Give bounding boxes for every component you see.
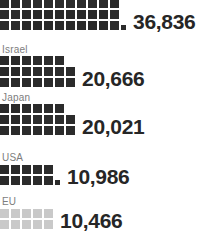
waffle-square bbox=[0, 115, 9, 124]
waffle-square bbox=[99, 21, 108, 30]
waffle-square bbox=[11, 176, 20, 185]
waffle-square bbox=[88, 0, 97, 8]
waffle-column bbox=[11, 104, 20, 135]
chart-entry-south-korea: South Korea 36,836 bbox=[0, 0, 218, 30]
waffle-square bbox=[22, 126, 31, 135]
waffle-square bbox=[33, 10, 42, 19]
waffle-square bbox=[44, 0, 53, 8]
waffle-column bbox=[11, 209, 20, 229]
waffle-square bbox=[11, 0, 20, 8]
waffle-square bbox=[99, 0, 108, 8]
entry-body: 20,021 bbox=[0, 104, 218, 135]
chart-entry-japan: Japan 20,021 bbox=[0, 92, 218, 135]
waffle-square bbox=[11, 104, 20, 113]
waffle-square bbox=[110, 0, 119, 8]
waffle-square bbox=[77, 21, 86, 30]
chart-entry-eu: EU 10,466 bbox=[0, 196, 218, 229]
waffle-square bbox=[22, 10, 31, 19]
waffle-column bbox=[0, 56, 9, 87]
waffle-square bbox=[22, 220, 31, 229]
chart-entry-israel: Israel 20,666 bbox=[0, 44, 218, 87]
waffle-square bbox=[22, 209, 31, 218]
entry-value: 20,021 bbox=[82, 116, 144, 137]
waffle-column bbox=[44, 56, 53, 87]
waffle-column bbox=[66, 115, 75, 135]
waffle-square-partial bbox=[55, 180, 60, 185]
waffle-square bbox=[22, 176, 31, 185]
waffle-square bbox=[33, 0, 42, 8]
waffle-column bbox=[55, 0, 64, 30]
waffle-square bbox=[66, 21, 75, 30]
waffle-square bbox=[66, 126, 75, 135]
entry-label: EU bbox=[2, 196, 218, 207]
waffle-square bbox=[0, 21, 9, 30]
waffle-square bbox=[22, 67, 31, 76]
pictogram-chart: South Korea 36,836 Israel bbox=[0, 0, 218, 236]
waffle-square bbox=[33, 209, 42, 218]
entry-body: 10,466 bbox=[0, 208, 218, 229]
entry-body: 36,836 bbox=[0, 0, 218, 30]
waffle-square bbox=[0, 78, 9, 87]
waffle-square bbox=[33, 115, 42, 124]
waffle-square bbox=[88, 10, 97, 19]
waffle-square bbox=[0, 220, 9, 229]
waffle-square bbox=[33, 104, 42, 113]
waffle-square bbox=[44, 165, 53, 174]
waffle-square bbox=[44, 115, 53, 124]
waffle-square bbox=[110, 21, 119, 30]
waffle-square bbox=[0, 126, 9, 135]
waffle-square bbox=[55, 126, 64, 135]
waffle-column bbox=[33, 0, 42, 30]
waffle-squares bbox=[0, 56, 77, 87]
waffle-square bbox=[55, 67, 64, 76]
waffle-square bbox=[11, 115, 20, 124]
waffle-square bbox=[66, 10, 75, 19]
entry-label: Japan bbox=[2, 92, 218, 103]
waffle-square bbox=[44, 220, 53, 229]
waffle-square bbox=[22, 21, 31, 30]
waffle-square bbox=[66, 0, 75, 8]
waffle-square bbox=[55, 56, 64, 65]
waffle-square bbox=[99, 10, 108, 19]
waffle-square bbox=[33, 67, 42, 76]
chart-entry-usa: USA 10,986 bbox=[0, 152, 218, 185]
waffle-square bbox=[22, 165, 31, 174]
entry-value: 20,666 bbox=[82, 68, 144, 89]
entry-body: 20,666 bbox=[0, 56, 218, 87]
waffle-column bbox=[22, 209, 31, 229]
waffle-square bbox=[33, 176, 42, 185]
waffle-square bbox=[55, 10, 64, 19]
waffle-column bbox=[22, 0, 31, 30]
entry-label: Israel bbox=[2, 44, 218, 55]
waffle-column bbox=[33, 56, 42, 87]
waffle-square bbox=[22, 104, 31, 113]
waffle-square bbox=[11, 78, 20, 87]
waffle-square bbox=[55, 0, 64, 8]
waffle-column bbox=[11, 165, 20, 185]
waffle-square bbox=[33, 220, 42, 229]
waffle-column bbox=[44, 0, 53, 30]
waffle-square bbox=[33, 78, 42, 87]
waffle-column bbox=[66, 67, 75, 87]
waffle-column bbox=[0, 104, 9, 135]
waffle-square bbox=[55, 78, 64, 87]
waffle-column bbox=[44, 165, 53, 185]
waffle-square bbox=[11, 165, 20, 174]
entry-value: 10,986 bbox=[67, 166, 129, 187]
waffle-column bbox=[33, 104, 42, 135]
waffle-column bbox=[99, 0, 108, 30]
waffle-square bbox=[22, 115, 31, 124]
waffle-square bbox=[11, 126, 20, 135]
waffle-column bbox=[55, 104, 64, 135]
waffle-square bbox=[44, 67, 53, 76]
waffle-square bbox=[55, 21, 64, 30]
waffle-square-partial bbox=[121, 25, 126, 30]
waffle-square bbox=[11, 21, 20, 30]
waffle-square bbox=[0, 165, 9, 174]
waffle-square bbox=[22, 0, 31, 8]
waffle-column bbox=[33, 165, 42, 185]
waffle-column bbox=[55, 180, 60, 185]
waffle-square bbox=[110, 10, 119, 19]
waffle-column bbox=[110, 0, 119, 30]
waffle-column bbox=[77, 0, 86, 30]
